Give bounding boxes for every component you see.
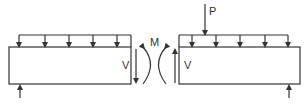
left-distributed-load	[19, 35, 131, 47]
left-moment-arc-icon	[143, 47, 151, 84]
right-beam-segment	[159, 4, 301, 98]
right-shear-label: V	[184, 59, 192, 71]
moment-label: M	[150, 36, 159, 48]
left-beam-body	[9, 47, 131, 84]
right-distributed-load	[179, 35, 288, 47]
right-beam-body	[179, 47, 300, 84]
left-shear-label: V	[122, 59, 130, 71]
right-moment-arc-icon	[159, 47, 167, 84]
beam-free-body-diagram: V M V P	[0, 0, 308, 106]
point-load-label: P	[209, 5, 216, 17]
